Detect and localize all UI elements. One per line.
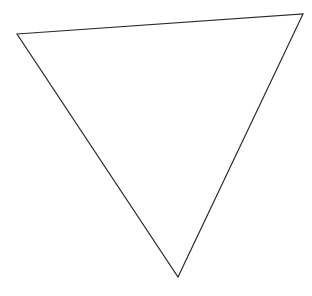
triangle-shape	[17, 14, 303, 277]
diagram-canvas	[0, 0, 312, 296]
